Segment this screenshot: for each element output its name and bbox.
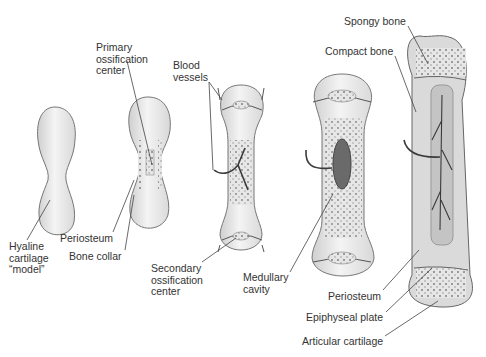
stage-4-medullary-cavity (306, 74, 374, 276)
stage-5-mature-bone (404, 36, 472, 307)
label-secondary-ossification-center: Secondary ossification center (151, 263, 203, 298)
label-hyaline-cartilage: Hyaline cartilage “model” (9, 241, 49, 276)
stage-3-vascular-invasion (214, 85, 264, 252)
diagram-artwork (0, 0, 486, 357)
label-articular-cartilage: Articular cartilage (302, 336, 383, 348)
stage-2-bone-collar (129, 97, 171, 228)
label-compact-bone: Compact bone (325, 46, 393, 58)
label-periosteum-right: Periosteum (328, 291, 381, 303)
label-spongy-bone: Spongy bone (344, 16, 406, 28)
label-bone-collar: Bone collar (69, 251, 122, 263)
label-epiphyseal-plate: Epiphyseal plate (306, 312, 383, 324)
stage-1-cartilage-model (38, 107, 76, 235)
label-periosteum-left: Periosteum (60, 233, 113, 245)
ossification-diagram: Hyaline cartilage “model” Primary ossifi… (0, 0, 486, 357)
label-primary-ossification-center: Primary ossification center (96, 42, 148, 77)
label-medullary-cavity: Medullary cavity (243, 272, 289, 295)
label-blood-vessels: Blood vessels (173, 60, 208, 83)
